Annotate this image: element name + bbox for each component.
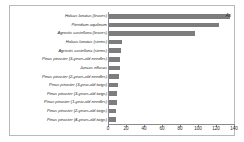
x-tick-label: 100 (194, 127, 202, 132)
category-label-row: Pteridium aquilinum (12, 21, 107, 30)
category-label: Pinus pinaster (3-years-old twigs) (47, 92, 107, 96)
bar-row (109, 46, 234, 55)
x-tick-label: 80 (177, 127, 182, 132)
bar-row (109, 72, 234, 81)
category-axis-labels: Holcus lanatus (leaves) Pteridium aquili… (12, 12, 107, 124)
bar (109, 117, 116, 122)
category-label: Holcus lanatus (leaves) (65, 14, 107, 18)
series-annotation: As (226, 13, 231, 18)
x-tick-label: 120 (212, 127, 220, 132)
category-label-row: Holcus lanatus (leaves) (12, 12, 107, 21)
category-label: Pinus pinaster (1-year-old needles) (44, 100, 107, 104)
category-label-row: Pinus pinaster (2-years-old twigs) (12, 107, 107, 116)
category-label-row: Agrostis castellana (stems) (12, 46, 107, 55)
category-label: Holcus lanatus (stems) (66, 40, 107, 44)
category-label: Pteridium aquilinum (71, 23, 107, 27)
category-label-row: Agrostis castellana (leaves) (12, 29, 107, 38)
bar (109, 57, 120, 62)
bar-row (109, 107, 234, 116)
bar-row (109, 21, 234, 30)
x-tick-label: 0 (107, 127, 110, 132)
bar (109, 83, 118, 88)
bar-row (109, 89, 234, 98)
bar (109, 48, 121, 53)
plot-area: Holcus lanatus (leaves) Pteridium aquili… (10, 6, 234, 135)
category-label: Agrostis castellana (stems) (58, 49, 107, 53)
category-label-row: Holcus lanatus (stems) (12, 38, 107, 47)
bar (109, 14, 230, 19)
category-label: Pinus pinaster (4-years-old twigs) (47, 118, 107, 122)
category-label: Juncus effusus (80, 66, 107, 70)
bar-row (109, 12, 234, 21)
x-tick-label: 40 (141, 127, 146, 132)
bar (109, 91, 117, 96)
bar (109, 109, 116, 114)
bar-row (109, 115, 234, 124)
x-tick-label: 60 (159, 127, 164, 132)
category-label: Pinus pinaster (2-years-old needles) (42, 75, 107, 79)
bar-row (109, 98, 234, 107)
bars-region (108, 12, 234, 124)
chart-container: Holcus lanatus (leaves) Pteridium aquili… (9, 5, 235, 136)
bar (109, 23, 219, 28)
bar-series (109, 12, 234, 124)
bar (109, 74, 119, 79)
bar-row (109, 81, 234, 90)
category-label-row: Pinus pinaster (3-year-old twigs) (12, 81, 107, 90)
bar-row (109, 38, 234, 47)
category-label-row: Pinus pinaster (1-year-old needles) (12, 98, 107, 107)
bar-row (109, 29, 234, 38)
category-label: Pinus pinaster (3-year-old twigs) (49, 83, 107, 87)
bar (109, 31, 195, 36)
bar-row (109, 55, 234, 64)
bar (109, 40, 122, 45)
bar-row (109, 64, 234, 73)
bar (109, 100, 117, 105)
category-label-row: Juncus effusus (12, 64, 107, 73)
bar (109, 66, 120, 71)
category-label: Agrostis castellana (leaves) (58, 31, 108, 35)
category-label: Pinus pinaster (3-years-old needles) (42, 57, 107, 61)
category-label-row: Pinus pinaster (3-years-old twigs) (12, 89, 107, 98)
category-label-row: Pinus pinaster (4-years-old twigs) (12, 115, 107, 124)
category-label-row: Pinus pinaster (2-years-old needles) (12, 72, 107, 81)
category-label: Pinus pinaster (2-years-old twigs) (47, 109, 107, 113)
category-label-row: Pinus pinaster (3-years-old needles) (12, 55, 107, 64)
x-tick-label: 140 (230, 127, 238, 132)
x-tick-label: 20 (123, 127, 128, 132)
x-axis-tick-labels: 020406080100120140 (108, 127, 234, 136)
